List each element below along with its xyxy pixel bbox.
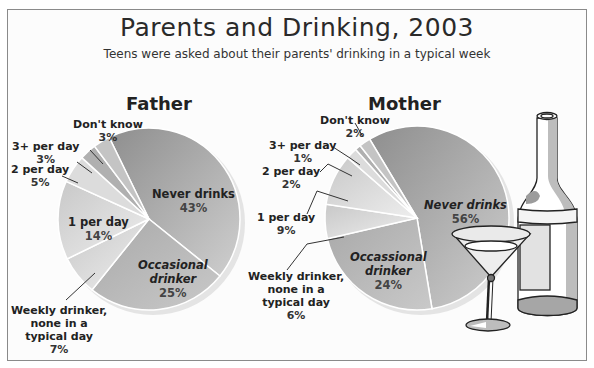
mother-label-occasional: Occassionaldrinker24% [350,250,427,292]
mother-label-3plus-per-day: 3+ per day1% [269,139,336,165]
mother-label-2-per-day: 2 per day2% [262,165,320,191]
mother-label-never-drinks: Never drinks56% [424,198,507,226]
mother-label-1-per-day: 1 per day9% [257,211,315,237]
father-label-weekly: Weekly drinker,none in atypical day7% [11,304,107,356]
wine-bottle-illustration [518,113,577,316]
father-label-occasional: Occasionaldrinker25% [138,258,208,300]
mother-label-dont-know: Don't know2% [320,114,390,140]
father-label-dont-know: Don't know3% [73,118,143,144]
father-label-2-per-day: 2 per day5% [11,163,69,189]
father-label-never-drinks: Never drinks43% [152,187,235,215]
father-label-1-per-day: 1 per day14% [68,215,129,243]
mother-label-weekly: Weekly drinker,none in atypical day6% [248,270,344,322]
